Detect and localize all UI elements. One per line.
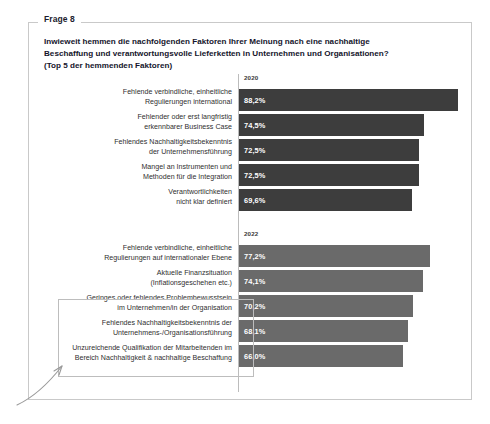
bar: 74,1%	[239, 270, 423, 292]
bar-category-label: Fehlende verbindliche, einheitlicheRegul…	[27, 88, 232, 107]
bar-row: Fehlende verbindliche, einheitlicheRegul…	[34, 88, 464, 113]
bar-row: Geringes oder fehlendes Problembewusstse…	[34, 294, 464, 319]
bar-value-label: 69,6%	[244, 196, 265, 205]
bar-row: Unzureichende Qualifikation der Mitarbei…	[34, 344, 464, 369]
bar-category-label-line-2: Methoden für die Integration	[27, 173, 232, 183]
bar-category-label: Mangel an Instrumenten undMethoden für d…	[27, 163, 232, 182]
bar-category-label-line-2: erkennbarer Business Case	[27, 123, 232, 133]
bar-row: Fehlende verbindliche, einheitlicheRegul…	[34, 244, 464, 269]
bar-row: Fehlender oder erst langfristigerkennbar…	[34, 113, 464, 138]
bar-value-label: 74,5%	[244, 121, 265, 130]
bar-category-label-line-2: Regulierungen auf internationaler Ebene	[27, 254, 232, 264]
bar-category-label-line-1: Verantwortlichkeiten	[27, 188, 232, 198]
bar-category-label: Fehlende verbindliche, einheitlicheRegul…	[27, 244, 232, 263]
bar-row: Verantwortlichkeitennicht klar definiert…	[34, 188, 464, 213]
bar-value-label: 66,0%	[244, 352, 265, 361]
bar: 72,5%	[239, 164, 419, 186]
question-title-line-3: (Top 5 der hemmenden Faktoren)	[44, 60, 444, 72]
bar-category-label: Aktuelle Finanzsituation(Inflationsgesch…	[27, 269, 232, 288]
bar-category-label-line-1: Fehlende verbindliche, einheitliche	[27, 244, 232, 254]
bar: 77,2%	[239, 245, 430, 267]
bar-category-label: Fehlender oder erst langfristigerkennbar…	[27, 113, 232, 132]
group-year-label: 2022	[244, 230, 258, 237]
bar-row: Fehlendes Nachhaltigkeitsbekenntnis derU…	[34, 319, 464, 344]
bar-category-label: Fehlendes Nachhaltigkeitsbekenntnisder U…	[27, 138, 232, 157]
bar-category-label-line-1: Unzureichende Qualifikation der Mitarbei…	[27, 344, 232, 354]
bar-value-label: 77,2%	[244, 252, 265, 261]
bar-category-label-line-2: (Inflationsgeschehen etc.)	[27, 279, 232, 289]
bar-category-label-line-1: Fehlendes Nachhaltigkeitsbekenntnis der	[27, 319, 232, 329]
bar-value-label: 72,5%	[244, 146, 265, 155]
bar-row: Mangel an Instrumenten undMethoden für d…	[34, 163, 464, 188]
bar-category-label-line-2: Bereich Nachhaltigkeit & nachhaltige Bes…	[27, 354, 232, 364]
group-year-label: 2020	[244, 74, 258, 81]
bar-category-label-line-2: nicht klar definiert	[27, 198, 232, 208]
bar: 88,2%	[239, 89, 458, 111]
bar: 68,1%	[239, 320, 408, 342]
bar-category-label-line-2: Unternehmens-/Organisationsführung	[27, 329, 232, 339]
bar-value-label: 88,2%	[244, 96, 265, 105]
bar: 66,0%	[239, 345, 403, 367]
bar: 69,6%	[239, 189, 412, 211]
bar-value-label: 70,2%	[244, 302, 265, 311]
bar-row: Aktuelle Finanzsituation(Inflationsgesch…	[34, 269, 464, 294]
bar-row: Fehlendes Nachhaltigkeitsbekenntnisder U…	[34, 138, 464, 163]
bar: 70,2%	[239, 295, 413, 317]
bar-category-label-line-1: Mangel an Instrumenten und	[27, 163, 232, 173]
question-title: Inwieweit hemmen die nachfolgenden Fakto…	[44, 36, 444, 73]
bar: 74,5%	[239, 114, 424, 136]
question-title-line-2: Beschaffung und verantwortungsvolle Lief…	[44, 48, 444, 60]
bar-category-label-line-1: Fehlender oder erst langfristig	[27, 113, 232, 123]
bar-category-label-line-1: Fehlende verbindliche, einheitliche	[27, 88, 232, 98]
question-title-line-1: Inwieweit hemmen die nachfolgenden Fakto…	[44, 36, 444, 48]
bar-value-label: 68,1%	[244, 327, 265, 336]
bar-category-label: Verantwortlichkeitennicht klar definiert	[27, 188, 232, 207]
bar-category-label-line-2: im Unternehmen/in der Organisation	[27, 304, 232, 314]
bar-category-label: Geringes oder fehlendes Problembewusstse…	[27, 294, 232, 313]
bar-category-label: Fehlendes Nachhaltigkeitsbekenntnis derU…	[27, 319, 232, 338]
bar-category-label-line-1: Aktuelle Finanzsituation	[27, 269, 232, 279]
bar-category-label-line-1: Fehlendes Nachhaltigkeitsbekenntnis	[27, 138, 232, 148]
bar-chart: 2020Fehlende verbindliche, einheitlicheR…	[34, 74, 464, 392]
bar-value-label: 74,1%	[244, 277, 265, 286]
bar-value-label: 72,5%	[244, 171, 265, 180]
bar: 72,5%	[239, 139, 419, 161]
bar-category-label-line-1: Geringes oder fehlendes Problembewusstse…	[27, 294, 232, 304]
bar-category-label-line-2: der Unternehmensführung	[27, 148, 232, 158]
question-number-legend: Frage 8	[38, 14, 81, 24]
bar-category-label-line-2: Regulierungen international	[27, 98, 232, 108]
bar-category-label: Unzureichende Qualifikation der Mitarbei…	[27, 344, 232, 363]
